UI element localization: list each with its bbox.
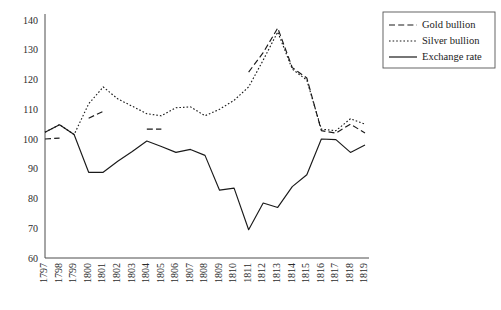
x-tick-label: 1814: [286, 263, 297, 283]
x-tick-label: 1805: [155, 263, 166, 283]
chart-container: 14013012011010090807060 1797179817991800…: [0, 0, 501, 310]
x-tick-label: 1819: [358, 263, 369, 283]
series-line-segment: [45, 125, 365, 230]
legend-label: Exchange rate: [422, 51, 482, 62]
x-tick-label: 1816: [315, 263, 326, 283]
y-tick-label: 110: [23, 104, 38, 115]
x-tick-label: 1797: [38, 263, 49, 283]
x-tick-label: 1809: [213, 263, 224, 283]
x-tick-label: 1812: [256, 263, 267, 283]
y-tick-label: 100: [23, 134, 38, 145]
x-tick-label: 1804: [140, 263, 151, 283]
y-tick-label: 140: [23, 15, 38, 26]
legend-label: Gold bullion: [422, 19, 476, 30]
data-series-group: [45, 28, 365, 230]
x-tick-label: 1803: [126, 263, 137, 283]
x-tick-label: 1802: [111, 263, 122, 283]
x-tick-label: 1808: [198, 263, 209, 283]
series-line-segment: [89, 111, 104, 118]
y-tick-label: 130: [23, 44, 38, 55]
x-tick-label: 1800: [82, 263, 93, 283]
x-tick-label: 1811: [242, 263, 253, 283]
y-tick-label: 120: [23, 74, 38, 85]
chart-legend: Gold bullionSilver bullionExchange rate: [383, 12, 495, 68]
series-exchange-rate: [45, 125, 365, 230]
series-line-segment: [45, 138, 60, 139]
x-tick-label: 1798: [53, 263, 64, 283]
y-tick-label: 70: [28, 223, 38, 234]
x-tick-label: 1799: [67, 263, 78, 283]
x-tick-label: 1818: [344, 263, 355, 283]
x-tick-label: 1810: [227, 263, 238, 283]
y-tick-label: 80: [28, 193, 38, 204]
y-tick-label: 60: [28, 253, 38, 264]
y-axis-tick-labels: 14013012011010090807060: [23, 15, 38, 264]
x-tick-label: 1813: [271, 263, 282, 283]
legend-label: Silver bullion: [422, 35, 480, 46]
series-gold-bullion: [45, 28, 365, 139]
x-axis-tick-labels: 1797179817991800180118021803180418051806…: [38, 263, 369, 283]
x-tick-label: 1801: [96, 263, 107, 283]
series-line-segment: [45, 32, 365, 135]
y-tick-label: 90: [28, 163, 38, 174]
line-chart: 14013012011010090807060 1797179817991800…: [0, 0, 501, 310]
x-tick-label: 1817: [329, 263, 340, 283]
x-tick-label: 1807: [184, 263, 195, 283]
x-tick-label: 1806: [169, 263, 180, 283]
x-tick-label: 1815: [300, 263, 311, 283]
series-silver-bullion: [45, 32, 365, 135]
